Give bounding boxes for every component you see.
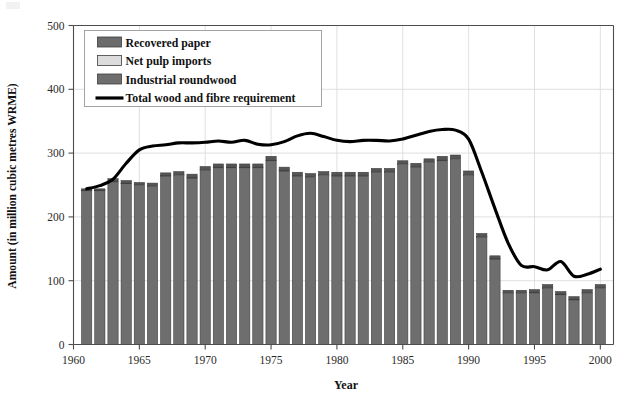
bar-segment <box>424 163 434 345</box>
bar-segment <box>516 293 526 344</box>
bar-segment <box>240 164 250 167</box>
legend-swatch-icon <box>98 37 122 47</box>
legend-swatch-icon <box>98 74 122 84</box>
legend-entry-label: Recovered paper <box>126 36 211 50</box>
y-axis-ticks: 0100200300400500 <box>47 20 73 351</box>
chart-legend: Recovered paperNet pulp importsIndustria… <box>85 31 322 107</box>
bar-segment <box>437 161 447 345</box>
legend-entry-label: Net pulp imports <box>126 54 212 68</box>
bar-segment <box>187 178 197 345</box>
bar-segment <box>516 290 526 293</box>
bar-segment <box>292 172 302 175</box>
bar-segment <box>279 171 289 345</box>
bar-segment <box>490 256 500 259</box>
stacked-bar-line-chart: 0100200300400500 19601965197019751980198… <box>0 0 640 406</box>
bar-segment <box>358 172 368 175</box>
bar-segment <box>121 184 131 345</box>
bar-segment <box>384 172 394 344</box>
bar-segment <box>108 182 118 345</box>
bar-segment <box>595 288 605 344</box>
bar-segment <box>134 182 144 185</box>
bar-segment <box>398 165 408 345</box>
x-tick-label: 1980 <box>325 354 348 366</box>
bar-segment <box>134 186 144 345</box>
bar-segment <box>569 300 579 345</box>
bar-segment <box>556 295 566 345</box>
bar-segment <box>450 159 460 344</box>
legend-entry-label: Total wood and fibre requirement <box>126 91 296 105</box>
bar-segment <box>226 168 236 345</box>
x-tick-label: 1965 <box>128 354 151 366</box>
bar-segment <box>529 290 539 293</box>
bar-segment <box>398 161 408 164</box>
bar-segment <box>569 297 579 300</box>
bar-segment <box>213 168 223 345</box>
bar-segment <box>161 173 171 176</box>
bar-segment <box>503 290 513 293</box>
bar-segment <box>529 293 539 345</box>
bar-segment <box>187 174 197 177</box>
bar-segment <box>490 259 500 344</box>
bar-segment <box>305 177 315 344</box>
bar-segment <box>82 191 92 345</box>
bar-segment <box>556 292 566 295</box>
bar-segment <box>332 172 342 175</box>
x-axis-ticks: 196019651970197519801985199019952000 <box>62 345 612 366</box>
bar-segment <box>450 155 460 159</box>
bar-series-group <box>82 155 606 344</box>
bar-segment <box>345 176 355 344</box>
x-tick-label: 1990 <box>457 354 480 366</box>
bar-segment <box>345 172 355 175</box>
bar-segment <box>213 164 223 167</box>
y-tick-label: 400 <box>47 83 65 95</box>
bar-segment <box>95 191 105 345</box>
bar-segment <box>266 156 276 160</box>
x-tick-label: 1960 <box>62 354 85 366</box>
bar-segment <box>226 164 236 167</box>
bar-segment <box>266 161 276 345</box>
bar-segment <box>384 168 394 171</box>
bar-segment <box>543 288 553 344</box>
x-tick-label: 1975 <box>260 354 283 366</box>
bar-segment <box>240 168 250 345</box>
x-tick-label: 1970 <box>194 354 217 366</box>
y-tick-label: 300 <box>47 147 65 159</box>
bar-segment <box>503 293 513 344</box>
bar-segment <box>411 167 421 344</box>
bar-segment <box>371 168 381 171</box>
bar-segment <box>595 285 605 288</box>
legend-swatch-icon <box>98 56 122 66</box>
bar-segment <box>200 167 210 170</box>
bar-segment <box>358 176 368 344</box>
bar-segment <box>319 175 329 344</box>
bar-segment <box>437 156 447 160</box>
bar-segment <box>174 172 184 175</box>
y-tick-label: 500 <box>47 20 65 32</box>
y-tick-label: 0 <box>59 339 65 351</box>
bar-segment <box>582 293 592 344</box>
chart-container: 0100200300400500 19601965197019751980198… <box>0 0 640 406</box>
bar-segment <box>319 172 329 175</box>
bar-segment <box>292 176 302 344</box>
bar-segment <box>477 237 487 344</box>
bar-segment <box>147 183 157 186</box>
bar-segment <box>305 174 315 177</box>
y-tick-label: 100 <box>47 275 65 287</box>
bar-segment <box>253 164 263 167</box>
bar-segment <box>582 290 592 293</box>
x-tick-label: 1985 <box>391 354 414 366</box>
bar-segment <box>332 176 342 344</box>
bar-segment <box>161 176 171 344</box>
bar-segment <box>200 170 210 344</box>
bar-segment <box>279 167 289 170</box>
bar-segment <box>174 175 184 344</box>
legend-entry-label: Industrial roundwood <box>126 73 237 87</box>
bar-segment <box>253 168 263 345</box>
bar-segment <box>543 285 553 288</box>
bar-segment <box>463 171 473 175</box>
bar-segment <box>95 189 105 190</box>
y-axis-title: Amount (in million cubic metres WRME) <box>6 83 19 288</box>
x-tick-label: 1995 <box>523 354 546 366</box>
bar-segment <box>424 159 434 162</box>
bar-segment <box>411 163 421 166</box>
